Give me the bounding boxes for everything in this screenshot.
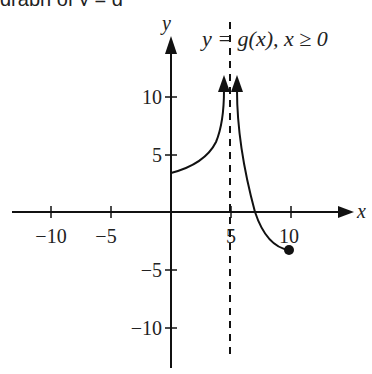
y-tick-label: 10 (142, 86, 162, 108)
x-axis: x (12, 200, 366, 222)
y-axis-arrow-icon (165, 36, 177, 54)
y-axis: y (160, 12, 177, 368)
x-tick-label: −10 (35, 225, 66, 247)
right-branch-arrow-icon (231, 75, 243, 92)
function-graph: x y −10 −5 5 10 10 5 −5 −10 y = g(x), x … (0, 0, 372, 374)
endpoint-dot (284, 245, 294, 255)
left-branch-arrow-icon (218, 75, 230, 92)
x-tick-label: −5 (95, 225, 116, 247)
y-tick-label: −10 (131, 317, 162, 339)
left-branch-curve (171, 90, 224, 173)
y-axis-label: y (160, 12, 171, 35)
x-axis-label: x (356, 200, 366, 222)
y-tick-label: −5 (141, 259, 162, 281)
graph-title: y = g(x), x ≥ 0 (200, 26, 328, 51)
x-tick-label: 10 (279, 225, 299, 247)
x-axis-arrow-icon (338, 206, 354, 218)
y-tick-label: 5 (152, 144, 162, 166)
